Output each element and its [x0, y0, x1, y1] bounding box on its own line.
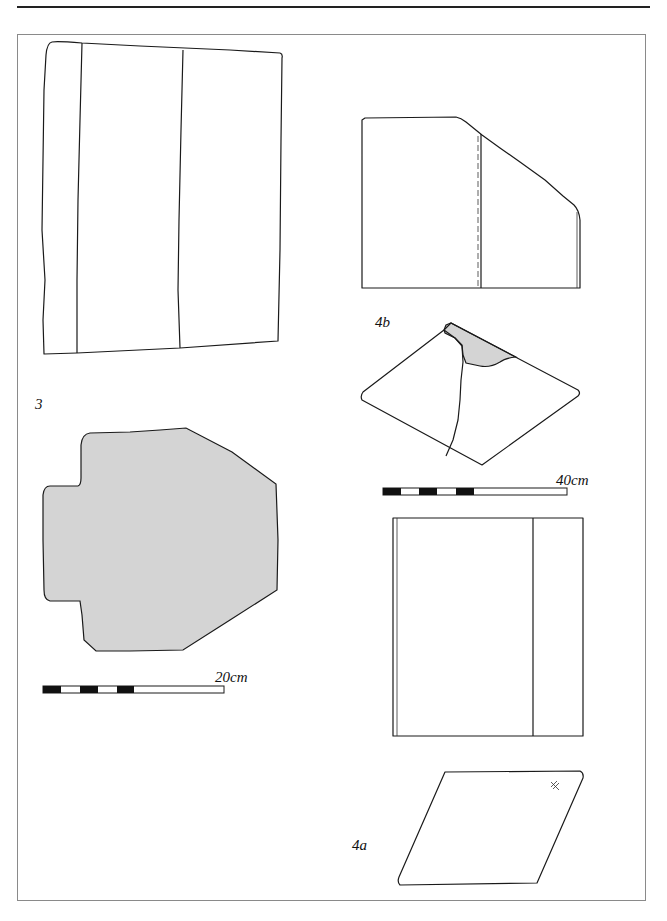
label-4a: 4a [352, 837, 367, 853]
scale-label-20cm: 20cm [215, 669, 248, 685]
object-4b-elevation [362, 117, 580, 288]
label-3: 3 [34, 396, 43, 412]
object-4a-isometric [398, 771, 583, 885]
figure-drawing: 3 20cm 4b 40cm [0, 0, 667, 921]
scale-label-40cm: 40cm [556, 472, 589, 488]
label-4b: 4b [375, 314, 391, 330]
scale-bar-40cm [383, 488, 567, 495]
object-4b-isometric [361, 323, 579, 465]
object-4a-elevation [393, 518, 583, 736]
object-3-elevation [42, 42, 282, 354]
object-3-plan [43, 428, 278, 651]
scale-bar-20cm [43, 686, 224, 693]
cross-mark-icon [551, 781, 559, 790]
